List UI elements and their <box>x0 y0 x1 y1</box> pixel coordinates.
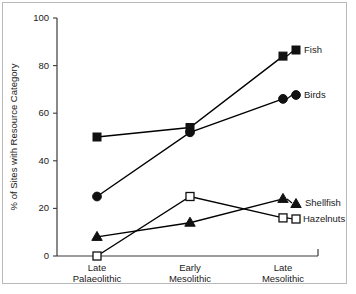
legend-entry-birds: Birds <box>287 89 326 100</box>
y-axis-title: % of Sites with Resource Category <box>8 63 19 210</box>
series-birds-point-early-mesolithic <box>186 128 195 137</box>
legend-label-birds: Birds <box>304 89 326 100</box>
y-tick-label-60: 60 <box>38 107 49 118</box>
legend-entry-shellfish: Shellfish <box>287 197 341 208</box>
y-tick-label-80: 80 <box>38 60 49 71</box>
series-fish-point-late-mesolithic <box>279 52 287 60</box>
series-birds-point-late-mesolithic <box>279 95 288 104</box>
series-birds <box>93 95 288 201</box>
series-birds-point-late-palaeolithic <box>93 192 102 201</box>
y-tick-labels: 0 20 40 60 80 100 <box>33 12 49 261</box>
series-shellfish-point-late-mesolithic <box>278 193 288 202</box>
legend-label-hazelnuts: Hazelnuts <box>303 213 345 224</box>
series-hazelnuts-point-late-palaeolithic <box>93 252 101 260</box>
x-label-late-palaeolithic-line2: Palaeolithic <box>73 273 122 284</box>
legend: Fish Birds Shellfish Hazelnuts <box>287 44 345 224</box>
y-tick-label-0: 0 <box>44 250 49 261</box>
x-category-labels: Late Palaeolithic Early Mesolithic Late … <box>73 262 305 284</box>
legend-label-fish: Fish <box>304 44 322 55</box>
legend-marker-birds-icon <box>292 91 301 100</box>
x-label-early-mesolithic-line1: Early <box>179 262 201 273</box>
legend-entry-hazelnuts: Hazelnuts <box>287 213 345 224</box>
legend-label-shellfish: Shellfish <box>305 197 341 208</box>
x-label-late-mesolithic-line2: Mesolithic <box>262 273 304 284</box>
series-hazelnuts-point-late-mesolithic <box>279 214 287 222</box>
legend-marker-hazelnuts-icon <box>292 215 300 223</box>
y-tick-label-20: 20 <box>38 202 49 213</box>
series-fish-point-late-palaeolithic <box>93 133 101 141</box>
x-label-early-mesolithic-line2: Mesolithic <box>169 273 211 284</box>
series-birds-line <box>97 99 283 197</box>
y-tick-label-100: 100 <box>33 12 49 23</box>
x-label-late-mesolithic-line1: Late <box>274 262 293 273</box>
legend-marker-fish-icon <box>292 46 300 54</box>
legend-entry-fish: Fish <box>287 44 322 56</box>
x-label-late-palaeolithic-line1: Late <box>88 262 107 273</box>
y-tick-label-40: 40 <box>38 155 49 166</box>
chart-figure: 0 20 40 60 80 100 % of Sites with Resour… <box>0 0 356 294</box>
series-hazelnuts-point-early-mesolithic <box>186 193 194 201</box>
legend-marker-shellfish-icon <box>291 199 301 208</box>
line-chart: 0 20 40 60 80 100 % of Sites with Resour… <box>0 0 356 294</box>
